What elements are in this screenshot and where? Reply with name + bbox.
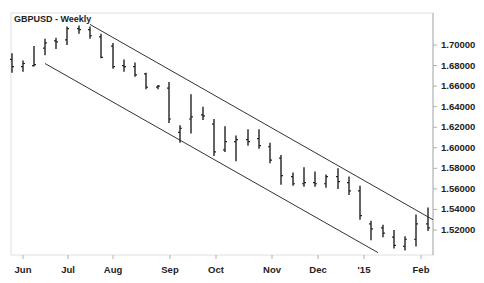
x-tick-label: Aug xyxy=(104,264,122,275)
ohlc-bar xyxy=(223,126,227,152)
y-tick-label: 1.54000 xyxy=(441,203,475,214)
y-tick-label: 1.58000 xyxy=(441,162,475,173)
y-tick-label: 1.60000 xyxy=(441,142,475,153)
channel-upper-line xyxy=(90,24,433,219)
x-tick-label: '15 xyxy=(358,264,371,275)
ohlc-bar xyxy=(133,62,137,76)
ohlc-bar xyxy=(111,43,115,69)
x-tick-label: Dec xyxy=(309,264,326,275)
x-tick-label: Sep xyxy=(161,264,178,275)
ohlc-bar xyxy=(189,94,193,133)
ohlc-bar xyxy=(426,207,430,231)
ohlc-bar xyxy=(403,236,407,250)
ohlc-bar xyxy=(77,25,81,33)
y-tick-label: 1.66000 xyxy=(441,80,475,91)
x-tick-label: Jun xyxy=(15,264,32,275)
ohlc-bar xyxy=(358,186,362,220)
ohlc-bar xyxy=(324,175,328,188)
ohlc-bar xyxy=(291,172,295,185)
ohlc-bar xyxy=(178,125,182,142)
x-tick-label: Feb xyxy=(413,264,430,275)
ohlc-bar xyxy=(369,221,373,241)
ohlc-bar xyxy=(167,82,171,123)
ohlc-bar xyxy=(279,155,283,185)
ohlc-bar xyxy=(246,129,250,145)
ohlc-bar xyxy=(122,59,126,71)
plot-frame xyxy=(11,13,433,255)
ohlc-bar xyxy=(43,39,47,55)
ohlc-bar xyxy=(313,171,317,186)
x-axis-ticks xyxy=(23,255,421,259)
y-tick-label: 1.56000 xyxy=(441,183,475,194)
ohlc-bar xyxy=(347,177,351,196)
chart-title: GBPUSD - Weekly xyxy=(14,14,91,24)
ohlc-bar xyxy=(144,73,148,89)
ohlc-bar xyxy=(336,168,340,189)
ohlc-bar xyxy=(201,107,205,120)
y-tick-label: 1.70000 xyxy=(441,39,475,50)
ohlc-bar xyxy=(392,230,396,249)
ohlc-bars xyxy=(10,25,430,250)
ohlc-bar xyxy=(414,215,418,247)
ohlc-bar xyxy=(54,38,58,49)
y-tick-label: 1.64000 xyxy=(441,101,475,112)
x-tick-label: Nov xyxy=(263,264,281,275)
ohlc-bar xyxy=(257,129,261,149)
channel-lower-line xyxy=(45,64,378,253)
ohlc-bar xyxy=(65,27,69,46)
ohlc-bar xyxy=(302,167,306,187)
ohlc-bar xyxy=(234,135,238,161)
y-tick-label: 1.68000 xyxy=(441,60,475,71)
ohlc-bar xyxy=(32,46,36,67)
ohlc-bar xyxy=(156,85,160,89)
ohlc-bar xyxy=(381,225,385,237)
x-tick-label: Jul xyxy=(61,264,75,275)
chart-canvas xyxy=(0,0,484,283)
ohlc-bar xyxy=(268,143,272,164)
ohlc-bar xyxy=(88,27,92,39)
ohlc-bar xyxy=(21,60,25,71)
x-tick-label: Oct xyxy=(208,264,224,275)
ohlc-bar xyxy=(212,119,216,156)
y-axis-ticks xyxy=(433,45,437,230)
y-tick-label: 1.52000 xyxy=(441,224,475,235)
y-tick-label: 1.62000 xyxy=(441,121,475,132)
trend-channel xyxy=(45,24,433,252)
ohlc-bar xyxy=(99,34,103,59)
